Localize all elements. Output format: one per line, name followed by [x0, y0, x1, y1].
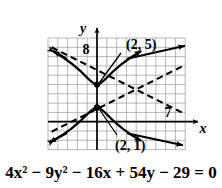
conic-equation-text: 4x² − 9y² − 16x + 54y − 29 = 0 — [5, 163, 217, 183]
point-label-lower-vertex: (2, 1) — [115, 138, 146, 154]
x-tick-label-7: 7 — [165, 105, 172, 120]
x-axis-label: x — [199, 121, 207, 136]
equation-caption: 4x² − 9y² − 16x + 54y − 29 = 0 — [0, 158, 222, 188]
y-axis-label: y — [78, 21, 87, 36]
graph-canvas: y x 8 7 (2, 5) (2, 1) — [0, 0, 222, 160]
vertex-lower-dot — [94, 104, 100, 110]
plot-grid — [48, 38, 185, 150]
vertex-upper-dot — [94, 82, 100, 88]
point-label-upper-vertex: (2, 5) — [126, 37, 157, 53]
hyperbola-figure: y x 8 7 (2, 5) (2, 1) 4x² − 9y² − 16x + … — [0, 0, 222, 188]
y-tick-label-8: 8 — [83, 42, 90, 57]
